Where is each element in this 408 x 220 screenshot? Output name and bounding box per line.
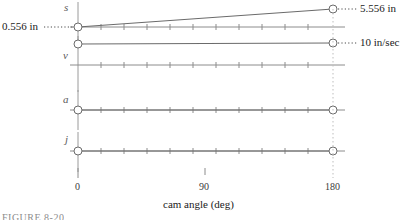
figure-caption-fragment: FIGURE 8-20 [2,213,64,220]
s-marker-start [74,23,82,31]
annotation-s-start: 0.556 in [2,21,38,32]
x-axis-major-ticks [78,168,205,178]
v-curve [78,43,333,44]
xtick-label-180: 180 [325,182,340,192]
cam-motion-chart: s v a j 0.556 in 5.556 in 10 in/sec 0 90… [0,0,408,220]
annotation-s-end: 5.556 in [360,3,396,14]
j-marker-start [74,147,82,155]
axis-label-v: v [63,50,68,61]
axis-label-j: j [65,134,68,145]
xtick-label-90: 90 [199,182,209,192]
axis-label-s: s [64,2,68,13]
subplot-j [70,132,345,172]
subplot-a [70,90,345,130]
v-marker-start [74,40,82,48]
axis-label-a: a [63,94,69,105]
subplot-v [70,36,358,92]
x-axis-title: cam angle (deg) [163,199,234,210]
xtick-label-0: 0 [75,182,80,192]
annotation-v-end: 10 in/sec [360,37,399,48]
subplot-s [44,2,358,42]
s-curve [78,9,333,27]
a-marker-start [74,106,82,114]
